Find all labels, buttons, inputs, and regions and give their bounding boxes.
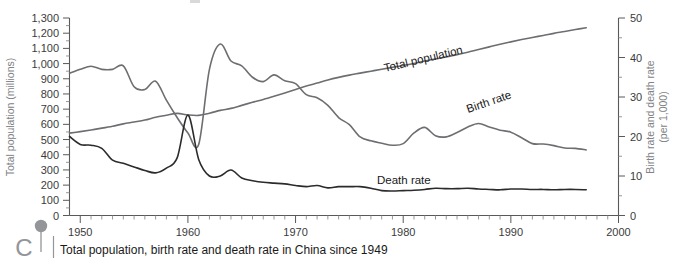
bottom-tick-label: 2000: [606, 226, 630, 238]
left-tick-label: 700: [41, 103, 59, 115]
bottom-tick-label: 1950: [68, 226, 92, 238]
left-tick-label: 1,200: [31, 27, 59, 39]
left-tick-label: 900: [41, 73, 59, 85]
left-tick-label: 300: [41, 164, 59, 176]
bottom-tick-label: 1960: [176, 226, 200, 238]
right-axis-title-line1: Birth rate and death rate: [644, 60, 656, 173]
bottom-axis-ticks: 195019601970198019902000: [68, 216, 631, 239]
left-axis-title: Total population (millions): [4, 58, 16, 176]
left-tick-label: 100: [41, 194, 59, 206]
left-tick-label: 500: [41, 134, 59, 146]
left-tick-label: 800: [41, 88, 59, 100]
left-tick-label: 1,000: [31, 58, 59, 70]
left-tick-label: 200: [41, 179, 59, 191]
caption-text: Total population, birth rate and death r…: [60, 243, 388, 257]
series-line-death-rate: [70, 115, 587, 191]
left-tick-label: 400: [41, 149, 59, 161]
chart-figure: 01002003004005006007008009001,0001,1001,…: [0, 0, 680, 264]
right-axis-title-line2: (per 1,000): [657, 91, 669, 142]
left-axis-ticks: 01002003004005006007008009001,0001,1001,…: [31, 12, 69, 222]
left-tick-label: 1,100: [31, 42, 59, 54]
right-tick-label: 50: [630, 12, 642, 24]
series-label-total-population: Total population: [383, 43, 464, 73]
bottom-tick-label: 1990: [499, 226, 523, 238]
right-tick-label: 30: [630, 91, 642, 103]
bottom-tick-label: 1970: [283, 226, 307, 238]
bottom-tick-label: 1980: [391, 226, 415, 238]
right-axis-ticks: 01020304050: [619, 12, 643, 222]
right-tick-label: 10: [630, 170, 642, 182]
series-label-death-rate: Death rate: [377, 174, 431, 186]
left-tick-label: 0: [53, 210, 59, 222]
right-tick-label: 0: [630, 210, 636, 222]
right-tick-label: 40: [630, 52, 642, 64]
left-tick-label: 1,300: [31, 12, 59, 24]
series-line-total-population: [70, 28, 587, 133]
right-tick-label: 20: [630, 131, 642, 143]
logo-letter-c: C: [15, 234, 32, 261]
left-tick-label: 600: [41, 118, 59, 130]
map-pin-icon: [35, 220, 47, 252]
series-label-birth-rate: Birth rate: [465, 88, 513, 115]
scan-artifact: [190, 0, 200, 3]
